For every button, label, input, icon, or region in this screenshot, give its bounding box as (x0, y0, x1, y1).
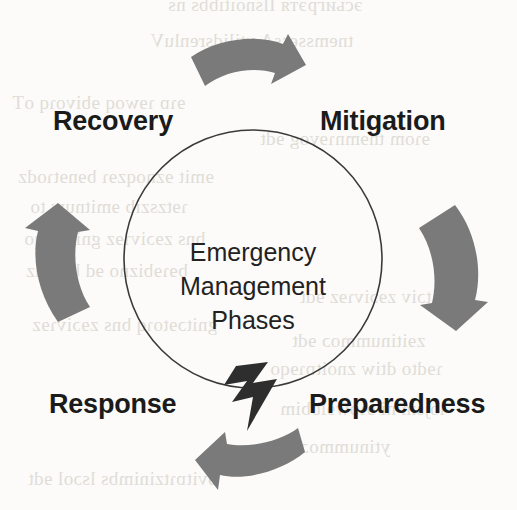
emergency-management-phases-diagram: эсьигрэтя Ilsnoitibbs ns tnemssessA ytil… (0, 0, 517, 510)
phase-label-mitigation: Mitigation (320, 106, 445, 137)
lightning-bolt-icon (224, 362, 277, 431)
arrow-left (25, 203, 90, 322)
center-line-1: Emergency (163, 235, 343, 269)
phase-label-response: Response (49, 389, 176, 420)
phase-label-preparedness: Preparedness (309, 389, 485, 420)
arrow-top (191, 34, 306, 86)
center-line-2: Management (163, 269, 343, 303)
arrow-bottom (195, 428, 305, 490)
phase-label-recovery: Recovery (53, 106, 173, 137)
center-line-3: Phases (163, 303, 343, 337)
arrow-right (419, 205, 488, 331)
center-text-block: Emergency Management Phases (163, 235, 343, 337)
